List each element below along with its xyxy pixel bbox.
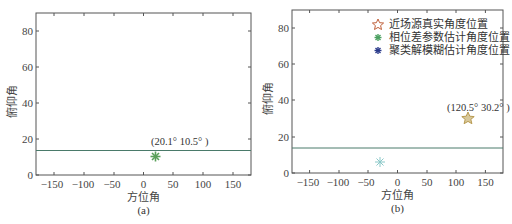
svg-text:100: 100 [195, 178, 212, 190]
svg-text:150: 150 [477, 176, 494, 188]
legend: 近场源真实角度位置 相位差参数估计角度位置 聚类解模糊估计角度位置 [372, 17, 510, 56]
panel-b: 0 20 40 60 80 −150 −100 −50 0 50 100 150… [261, 10, 510, 215]
y-ticks-a [36, 31, 251, 175]
legend-asterisk-blue-icon [375, 47, 382, 54]
y-tick-labels-a: 0 20 40 60 80 [22, 25, 34, 181]
svg-text:0: 0 [395, 176, 401, 188]
x-tick-labels-b: −150 −100 −50 0 50 100 150 [297, 176, 495, 188]
legend-label-phase-diff-estimate: 相位差参数估计角度位置 [389, 30, 510, 43]
x-tick-labels-a: −150 −100 −50 0 50 100 150 [41, 178, 242, 190]
svg-text:−100: −100 [327, 176, 350, 188]
svg-text:−50: −50 [103, 178, 121, 190]
svg-text:100: 100 [448, 176, 465, 188]
svg-text:50: 50 [168, 178, 180, 190]
y-tick-labels-b: 0 20 40 60 80 [278, 22, 290, 179]
svg-text:0: 0 [141, 178, 147, 190]
svg-text:40: 40 [22, 97, 34, 109]
y-axis-label-a: 俯仰角 [5, 85, 18, 118]
svg-text:80: 80 [278, 22, 290, 34]
star-marker-true-position [462, 112, 474, 124]
legend-star-icon [372, 19, 383, 30]
svg-text:20: 20 [278, 131, 290, 143]
svg-text:50: 50 [422, 176, 434, 188]
caption-a: (a) [137, 204, 150, 217]
annotation-b: (120.5° 30.2° ) [447, 102, 510, 114]
x-axis-label-b: 方位角 [381, 188, 414, 201]
legend-asterisk-green-icon [375, 34, 382, 41]
svg-text:−50: −50 [357, 176, 375, 188]
x-axis-label-a: 方位角 [127, 190, 160, 203]
annotation-a: (20.1° 10.5° ) [151, 136, 209, 148]
svg-text:0: 0 [28, 169, 34, 181]
svg-text:150: 150 [225, 178, 242, 190]
legend-label-cluster-estimate: 聚类解模糊估计角度位置 [389, 43, 510, 56]
asterisk-marker-a [151, 152, 161, 162]
caption-b: (b) [391, 202, 404, 215]
svg-text:−100: −100 [72, 178, 95, 190]
svg-text:−150: −150 [41, 178, 64, 190]
svg-text:20: 20 [22, 133, 34, 145]
svg-text:60: 60 [22, 61, 34, 73]
svg-text:−150: −150 [297, 176, 320, 188]
asterisk-marker-b [375, 157, 385, 167]
svg-text:60: 60 [278, 58, 290, 70]
legend-label-true-position: 近场源真实角度位置 [389, 17, 488, 30]
panel-a: 0 20 40 60 80 −150 −100 −50 0 50 100 150… [5, 13, 251, 217]
svg-text:40: 40 [278, 94, 290, 106]
svg-text:0: 0 [284, 167, 290, 179]
svg-text:80: 80 [22, 25, 34, 37]
figure: 0 20 40 60 80 −150 −100 −50 0 50 100 150… [0, 0, 512, 224]
y-axis-label-b: 俯仰角 [261, 82, 274, 115]
